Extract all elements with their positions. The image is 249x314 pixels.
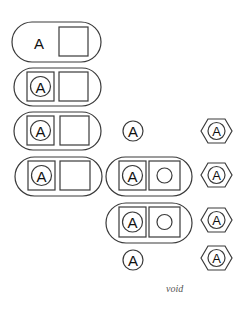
letter-a: A — [127, 214, 137, 231]
hex-2: A — [201, 163, 232, 187]
letter-a: A — [35, 123, 45, 140]
hex-1: A — [201, 119, 232, 143]
circle-a-bottom: A — [123, 250, 143, 270]
letter-a: A — [212, 124, 221, 139]
letter-a: A — [212, 168, 221, 183]
letter-a: A — [212, 213, 221, 228]
letter-a: A — [212, 251, 221, 266]
letter-a: A — [36, 168, 46, 185]
caption-void: void — [166, 283, 183, 294]
letter-a: A — [35, 79, 45, 96]
pill-5: A — [106, 157, 192, 196]
pill-6: A — [106, 203, 192, 243]
circle-a-top: A — [123, 121, 143, 141]
pill-4: A — [15, 157, 102, 196]
letter-a: A — [34, 35, 44, 52]
pill-3: A — [14, 112, 101, 150]
letter-a: A — [127, 168, 137, 185]
hex-3: A — [201, 208, 232, 232]
pill-1: A — [12, 22, 101, 62]
letter-a: A — [128, 252, 138, 269]
hex-4: A — [201, 246, 232, 270]
diagram-canvas: A A A A A A A — [0, 0, 249, 314]
letter-a: A — [128, 123, 138, 140]
pill-2: A — [14, 68, 101, 106]
